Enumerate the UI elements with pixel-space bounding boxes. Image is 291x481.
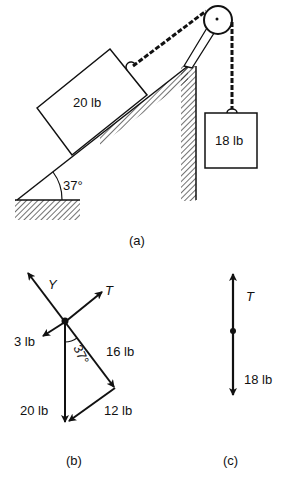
caption-a: (a) <box>129 233 145 248</box>
caption-b: (b) <box>66 453 82 468</box>
tension-label-c: T <box>246 289 255 304</box>
block-hanging-label: 18 lb <box>215 133 243 148</box>
angle-arc <box>53 172 62 200</box>
pulley-axle <box>216 18 219 21</box>
weight-label-c: 18 lb <box>244 372 272 387</box>
angle-arc-b <box>65 338 77 342</box>
ground-hatch <box>15 200 80 220</box>
figure-b: Y T 3 lb 16 lb 12 lb 20 lb 37° (b) <box>14 273 134 468</box>
perp-component-label: 12 lb <box>104 403 132 418</box>
angle-label: 37° <box>63 178 83 193</box>
caption-c: (c) <box>223 453 238 468</box>
physics-diagram: 37° 20 lb 18 lb (a) Y T 3 lb 16 lb <box>0 0 291 481</box>
center-point-c <box>230 328 236 334</box>
friction-arrow <box>43 322 65 336</box>
tension-label: T <box>105 283 114 298</box>
block-incline-label: 20 lb <box>73 95 101 110</box>
weight-label: 20 lb <box>20 403 48 418</box>
wall-hatch <box>181 66 196 201</box>
tension-arrow <box>65 292 102 322</box>
normal-force-arrow <box>28 273 65 322</box>
center-point-b <box>62 318 69 325</box>
friction-label: 3 lb <box>14 334 35 349</box>
figure-c: T 18 lb (c) <box>223 274 272 468</box>
figure-a: 37° 20 lb 18 lb (a) <box>15 6 257 248</box>
parallel-component-label: 16 lb <box>106 344 134 359</box>
normal-label: Y <box>48 277 58 292</box>
angle-label-b: 37° <box>70 342 92 366</box>
